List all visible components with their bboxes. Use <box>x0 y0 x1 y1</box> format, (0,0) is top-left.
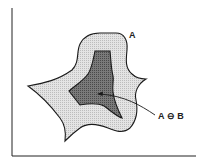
erosion-diagram: A A ⊖ B <box>0 0 201 167</box>
set-a-label: A <box>129 30 136 40</box>
eroded-set-label: A ⊖ B <box>158 111 184 121</box>
